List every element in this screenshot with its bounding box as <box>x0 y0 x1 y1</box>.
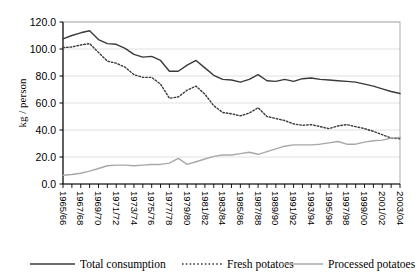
chart-canvas: 0.020.040.060.080.0100.0120.0 1965/66196… <box>0 0 420 279</box>
x-tick-label: 1969/70 <box>93 191 104 225</box>
x-tick-label: 1993/94 <box>306 191 317 225</box>
x-tick-label: 1997/98 <box>341 191 352 225</box>
x-tick-label: 1991/92 <box>288 191 299 225</box>
x-tick-label: 1995/96 <box>324 191 335 225</box>
y-tick-label: 40.0 <box>36 124 57 136</box>
chart-legend: Total consumptionFresh potatoesProcessed… <box>30 258 416 271</box>
x-tick-label: 1983/84 <box>217 191 228 225</box>
y-tick-label: 60.0 <box>36 97 57 109</box>
x-tick-label: 1985/86 <box>235 191 246 225</box>
gridlines <box>63 22 400 157</box>
x-tick-label: 1987/88 <box>253 191 264 225</box>
x-tick-label: 1979/80 <box>182 191 193 225</box>
y-tick-label: 20.0 <box>36 151 57 163</box>
legend-label-total-consumption: Total consumption <box>80 258 166 271</box>
series-line-fresh-potatoes <box>63 44 400 139</box>
x-axis-tick-labels: 1965/661967/681969/701971/721973/741975/… <box>58 191 406 225</box>
x-tick-label: 1999/00 <box>359 191 370 225</box>
x-tick-label: 2003/04 <box>395 191 406 225</box>
x-tick-label: 1989/90 <box>270 191 281 225</box>
potato-consumption-chart: 0.020.040.060.080.0100.0120.0 1965/66196… <box>0 0 420 279</box>
series-line-total-consumption <box>63 31 400 94</box>
y-axis-label: kg / person <box>16 78 28 127</box>
x-tick-label: 1981/82 <box>199 191 210 225</box>
x-tick-label: 1967/68 <box>75 191 86 225</box>
series-line-processed-potatoes <box>63 137 400 175</box>
x-tick-label: 1971/72 <box>111 191 122 225</box>
y-tick-label: 120.0 <box>30 16 56 28</box>
x-tick-label: 1965/66 <box>58 191 69 225</box>
legend-label-processed-potatoes: Processed potatoes <box>328 258 416 271</box>
y-tick-label: 0.0 <box>41 178 56 190</box>
axis-ticks <box>60 22 401 188</box>
x-tick-label: 1977/78 <box>164 191 175 225</box>
y-tick-label: 80.0 <box>36 70 57 82</box>
x-tick-label: 2001/02 <box>377 191 388 225</box>
x-tick-label: 1973/74 <box>129 191 140 225</box>
x-tick-label: 1975/76 <box>146 191 157 225</box>
y-axis-tick-labels: 0.020.040.060.080.0100.0120.0 <box>30 16 56 190</box>
y-tick-label: 100.0 <box>30 43 56 55</box>
